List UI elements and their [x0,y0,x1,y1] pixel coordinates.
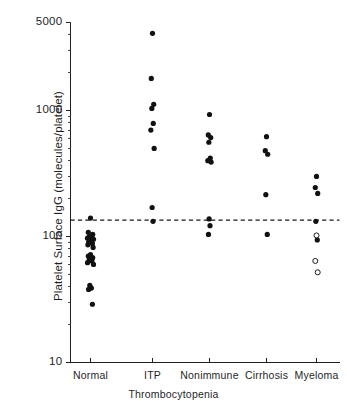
data-point-filled [265,232,270,237]
data-point-filled [85,260,90,265]
series-cirrhosis [263,134,271,237]
data-point-filled [313,219,318,224]
series-nonimmune [205,112,213,237]
y-axis-title: Platelet Surface IgG (molecules/platelet… [52,46,64,346]
data-point-filled [152,146,157,151]
series-itp [148,31,156,224]
series-myeloma [313,174,321,243]
data-point-filled [151,121,156,126]
data-point-filled [207,223,212,228]
data-point-filled [149,106,154,111]
data-point-open [313,258,318,263]
data-point-filled [265,152,270,157]
data-point-filled [315,191,320,196]
data-point-filled [90,302,95,307]
data-point-filled [263,192,268,197]
data-point-filled [150,31,155,36]
data-point-filled [148,127,153,132]
data-point-open [314,233,319,238]
x-tick-label-myeloma: Myeloma [274,369,347,381]
scatter-plot-figure: 5000100010010 NormalITPNonimmuneCirrhosi… [0,0,347,413]
data-point-filled [86,287,91,292]
axes [66,23,340,363]
data-point-filled [264,134,269,139]
data-point-filled [91,245,96,250]
data-point-filled [207,216,212,221]
data-point-filled [314,174,319,179]
y-tick-label-10: 10 [0,355,63,367]
data-points [85,31,320,307]
series-normal [85,216,96,307]
data-point-filled [208,135,213,140]
y-tick-label-5000: 5000 [0,15,63,27]
data-point-filled [206,140,211,145]
data-point-filled [206,232,211,237]
data-point-filled [207,112,212,117]
data-point-filled [209,159,214,164]
data-point-filled [150,205,155,210]
data-point-filled [91,262,96,267]
data-point-filled [313,185,318,190]
data-point-open [315,270,320,275]
data-point-filled [88,216,93,221]
x-axis-title: Thrombocytopenia [0,388,347,400]
data-point-filled [85,242,90,247]
data-point-filled [149,76,154,81]
data-point-filled [150,219,155,224]
